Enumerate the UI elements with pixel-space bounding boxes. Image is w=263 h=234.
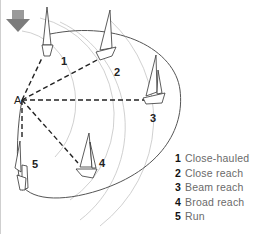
boat-4-number: 4 <box>99 157 105 169</box>
boat-2-icon <box>96 10 116 60</box>
legend-item-beam-reach: 3Beam reach <box>175 180 249 195</box>
legend-item-run: 5Run <box>175 209 249 224</box>
legend-item-close-reach: 2Close reach <box>175 166 249 181</box>
range-arcs <box>22 18 154 226</box>
legend: 1Close-hauled 2Close reach 3Beam reach 4… <box>175 151 249 224</box>
origin-label: A <box>14 94 21 106</box>
boat-1-icon <box>42 7 53 56</box>
boat-5-number: 5 <box>32 158 38 170</box>
legend-item-close-hauled: 1Close-hauled <box>175 151 249 166</box>
wind-arrow-down-icon <box>6 10 30 32</box>
boat-3-number: 3 <box>150 112 156 124</box>
boat-4-icon <box>76 133 97 178</box>
boat-3-icon <box>143 55 165 104</box>
boat-1-number: 1 <box>61 55 67 67</box>
legend-item-broad-reach: 4Broad reach <box>175 195 249 210</box>
boat-2-number: 2 <box>114 66 120 78</box>
